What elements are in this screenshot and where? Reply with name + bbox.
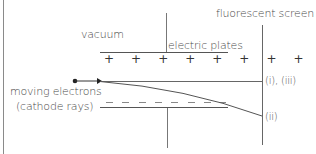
fluorescent-screen-label: fluorescent screen bbox=[216, 7, 314, 20]
top-plate-plus-signs: + + + + + + + + bbox=[104, 52, 310, 66]
deflected-beam-path bbox=[100, 82, 262, 117]
path-deflected-label: (ii) bbox=[265, 110, 278, 123]
path-straight-label: (i), (iii) bbox=[265, 74, 296, 87]
electric-plates-label: electric plates bbox=[168, 39, 243, 52]
vacuum-label: vacuum bbox=[81, 28, 124, 41]
cathode-rays-label: (cathode rays) bbox=[16, 100, 93, 113]
cathode-ray-diagram: + + + + + + + + vacuum electric plates f… bbox=[0, 0, 316, 154]
moving-electrons-label: moving electrons bbox=[10, 85, 102, 98]
